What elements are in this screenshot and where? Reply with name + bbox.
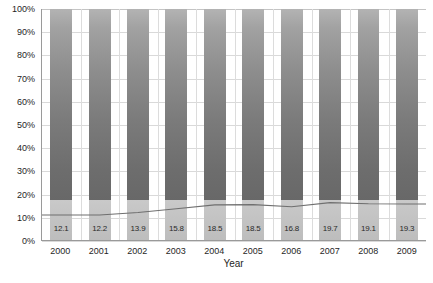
bar-value-label: 12.1: [50, 224, 72, 233]
bar-value-label: 19.1: [358, 224, 380, 233]
y-axis-tick-label: 0%: [22, 237, 35, 246]
y-axis-tick-label: 50%: [17, 121, 35, 130]
bar: 19.1: [358, 9, 380, 240]
x-axis-tick-label: 2005: [234, 244, 273, 258]
bar-foot: [242, 200, 264, 240]
y-axis-tick-label: 60%: [17, 97, 35, 106]
x-axis-tick-label: 2003: [157, 244, 196, 258]
y-axis-tick-label: 40%: [17, 144, 35, 153]
bar-value-label: 15.8: [165, 224, 187, 233]
y-axis-tick-label: 20%: [17, 190, 35, 199]
bar: 19.3: [396, 9, 418, 240]
bar-series: 12.112.213.915.818.518.516.819.719.119.3: [42, 9, 426, 240]
bar-value-label: 18.5: [242, 224, 264, 233]
bar-cell: 18.5: [234, 9, 272, 240]
bar-foot: [281, 200, 303, 240]
bar-cell: 12.1: [42, 9, 80, 240]
bar: 12.2: [89, 9, 111, 240]
chart-container: 0%10%20%30%40%50%60%70%80%90%100% 12.112…: [0, 0, 433, 283]
x-axis-tick-label: 2004: [195, 244, 234, 258]
bar-foot: [396, 200, 418, 240]
bar: 12.1: [50, 9, 72, 240]
bar: 18.5: [204, 9, 226, 240]
x-axis-tick-label: 2007: [311, 244, 350, 258]
bar-cell: 16.8: [272, 9, 310, 240]
y-axis-tick-label: 70%: [17, 74, 35, 83]
x-axis-tick-label: 2008: [349, 244, 388, 258]
gridline-horizontal: [42, 241, 426, 242]
bar-foot: [127, 200, 149, 240]
bar-cell: 12.2: [80, 9, 118, 240]
y-axis-tick-label: 30%: [17, 167, 35, 176]
bar-cell: 19.3: [388, 9, 426, 240]
bar: 15.8: [165, 9, 187, 240]
x-axis-labels: 2000200120022003200420052006200720082009: [41, 244, 426, 258]
x-axis-tick-label: 2000: [41, 244, 80, 258]
bar-cell: 15.8: [157, 9, 195, 240]
bar: 19.7: [319, 9, 341, 240]
y-axis-tick-label: 10%: [17, 213, 35, 222]
bar-value-label: 18.5: [204, 224, 226, 233]
y-axis-labels: 0%10%20%30%40%50%60%70%80%90%100%: [0, 0, 39, 241]
bar-value-label: 19.3: [396, 224, 418, 233]
bar-foot: [50, 200, 72, 240]
x-axis-tick-label: 2001: [80, 244, 119, 258]
y-axis-tick-label: 80%: [17, 51, 35, 60]
bar-cell: 19.7: [311, 9, 349, 240]
bar-value-label: 16.8: [281, 224, 303, 233]
bar-value-label: 19.7: [319, 224, 341, 233]
plot-area: 12.112.213.915.818.518.516.819.719.119.3: [41, 9, 426, 241]
bar: 18.5: [242, 9, 264, 240]
bar-cell: 19.1: [349, 9, 387, 240]
y-axis-tick-label: 90%: [17, 28, 35, 37]
bar-cell: 18.5: [196, 9, 234, 240]
x-axis-title: Year: [41, 258, 426, 270]
y-axis-tick-label: 100%: [12, 5, 35, 14]
bar-foot: [358, 200, 380, 240]
bar: 13.9: [127, 9, 149, 240]
x-axis-tick-label: 2009: [388, 244, 427, 258]
bar-value-label: 13.9: [127, 224, 149, 233]
bar-value-label: 12.2: [89, 224, 111, 233]
bar-foot: [204, 200, 226, 240]
x-axis-tick-label: 2006: [272, 244, 311, 258]
bar-foot: [165, 200, 187, 240]
bar-foot: [89, 200, 111, 240]
bar-foot: [319, 200, 341, 240]
bar: 16.8: [281, 9, 303, 240]
bar-cell: 13.9: [119, 9, 157, 240]
x-axis-tick-label: 2002: [118, 244, 157, 258]
